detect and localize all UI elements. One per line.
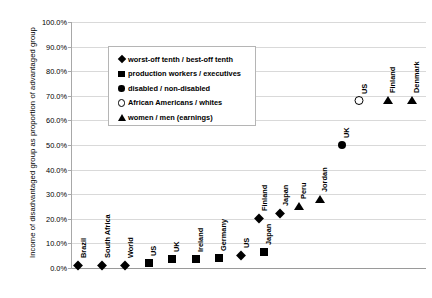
y-axis-tick-mark [68, 243, 72, 244]
y-axis-tick-mark [68, 96, 72, 97]
data-point-label: US [140, 251, 149, 261]
data-point: Japan [277, 210, 284, 217]
data-point-label: World [116, 248, 125, 269]
data-point-label-text: Ireland [196, 228, 205, 252]
data-point-label: US [232, 243, 241, 253]
data-point-label: Brazil [69, 248, 78, 268]
data-point-label-text: South Africa [102, 214, 111, 258]
diamond-legend-icon [116, 56, 127, 62]
data-point-label: Peru [290, 191, 299, 207]
data-point: Peru [294, 202, 304, 210]
data-point: US [355, 96, 364, 105]
gridline [72, 170, 426, 171]
data-point: Finland [383, 96, 393, 104]
y-axis-tick-label: 90.0% [11, 43, 67, 52]
y-axis-tick-mark [68, 47, 72, 48]
y-axis-tick-label: 70.0% [11, 92, 67, 101]
data-point: Japan [260, 248, 268, 256]
data-point: US [238, 252, 245, 259]
data-point-label: South Africa [93, 236, 102, 280]
y-axis-tick-mark [68, 219, 72, 220]
scatter-chart: Income of disadvantaged group as proport… [0, 0, 432, 298]
y-axis-tick-mark [68, 145, 72, 146]
data-point-label: Denmark [403, 78, 412, 110]
legend-item-0[interactable]: worst-off tenth / best-off tenth [116, 52, 251, 67]
data-point: Finland [256, 215, 263, 222]
legend-item-label: disabled / non-disabled [128, 84, 210, 93]
y-axis-tick-mark [68, 194, 72, 195]
data-point-label-text: Finland [388, 67, 397, 93]
legend-item-label: women / men (earnings) [128, 113, 213, 122]
data-point-label: Japan [271, 196, 280, 217]
square-legend-icon [116, 71, 127, 78]
data-point-label-text: UK [342, 127, 351, 138]
data-point: Jordan [315, 195, 325, 203]
data-point-label: UK [333, 133, 342, 144]
data-point-label-text: Japan [264, 224, 273, 245]
data-point: Denmark [407, 96, 417, 104]
y-axis-tick-label: 40.0% [11, 166, 67, 175]
data-point-label-text: World [125, 237, 134, 258]
data-point-label: Ireland [187, 240, 196, 264]
legend-item-label: worst-off tenth / best-off tenth [128, 55, 233, 64]
legend-item-2[interactable]: disabled / non-disabled [116, 81, 251, 96]
legend-item-label: production workers / executives [128, 69, 241, 78]
y-axis-tick-label: 0.0% [11, 264, 67, 273]
y-axis-tick-mark [68, 71, 72, 72]
data-point-label: Germany [210, 235, 219, 267]
data-point: US [145, 259, 153, 267]
data-point: Brazil [75, 262, 82, 269]
data-point: South Africa [99, 262, 106, 269]
legend-item-1[interactable]: production workers / executives [116, 67, 251, 82]
data-point-label-text: Japan [280, 185, 289, 206]
data-point-label: Finland [250, 198, 259, 224]
y-axis-tick-label: 20.0% [11, 215, 67, 224]
gridline [72, 145, 426, 146]
data-point-label: Finland [379, 80, 388, 106]
data-point-label-text: US [241, 238, 250, 248]
y-axis-tick-mark [68, 120, 72, 121]
y-axis-tick-label: 60.0% [11, 116, 67, 125]
legend-item-4[interactable]: women / men (earnings) [116, 110, 251, 125]
y-axis-tick-mark [68, 268, 72, 269]
y-axis-tick-label: 10.0% [11, 239, 67, 248]
y-axis-tick-label: 30.0% [11, 190, 67, 199]
data-point-label: Jordan [311, 180, 320, 205]
data-point-label-text: Denmark [412, 62, 421, 94]
legend-item-3[interactable]: African Americans / whites [116, 96, 251, 111]
data-point: Ireland [192, 255, 200, 263]
y-axis-tick-label: 100.0% [11, 18, 67, 27]
y-axis-tick-mark [68, 170, 72, 171]
circle-open-legend-icon [116, 99, 127, 107]
data-point-label-text: Finland [259, 185, 268, 211]
gridline [72, 194, 426, 195]
data-point-label-text: Peru [299, 183, 308, 199]
circle-legend-icon [116, 85, 127, 92]
gridline [72, 219, 426, 220]
data-point: Germany [215, 254, 223, 262]
data-point-label-text: US [149, 246, 158, 256]
data-point: World [122, 262, 129, 269]
data-point-label-text: Jordan [320, 167, 329, 192]
y-axis-tick-label: 50.0% [11, 141, 67, 150]
footer-strip [0, 285, 432, 298]
data-point: UK [168, 255, 176, 263]
data-point: UK [338, 141, 346, 149]
y-axis-tick-label: 80.0% [11, 67, 67, 76]
triangle-legend-icon [116, 114, 127, 121]
data-point-label-text: Germany [219, 219, 228, 251]
legend-item-label: African Americans / whites [128, 98, 222, 107]
data-point-label-text: US [359, 84, 368, 94]
data-point-label: Japan [255, 234, 264, 255]
y-axis-tick-mark [68, 22, 72, 23]
chart-legend: worst-off tenth / best-off tenthproducti… [108, 46, 256, 126]
gridline [72, 22, 426, 23]
data-point-label: US [350, 89, 359, 99]
data-point-label: UK [163, 247, 172, 258]
data-point-label-text: UK [172, 242, 181, 253]
data-point-label-text: Brazil [78, 238, 87, 258]
